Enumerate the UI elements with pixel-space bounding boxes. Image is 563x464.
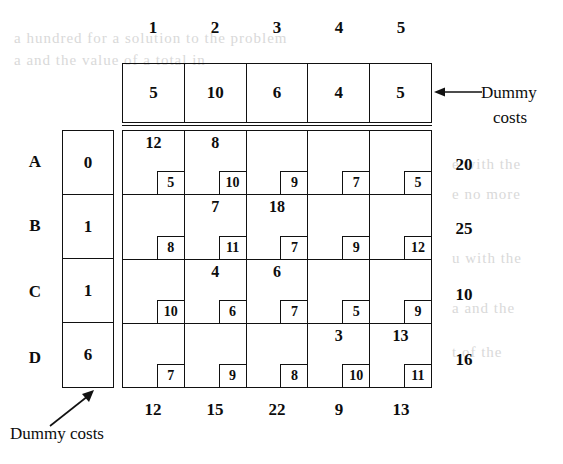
allocation-value: 18 <box>247 198 308 216</box>
dummy-costs-row: 5 10 6 4 5 <box>122 63 432 123</box>
cost-value: 9 <box>219 364 246 387</box>
dummy-costs-bottom-arrow <box>46 386 98 428</box>
demand-column-5: 13 <box>370 400 432 420</box>
cell-d1[interactable]: 7 <box>123 324 185 387</box>
dummy-cost-column-4: 4 <box>308 64 370 122</box>
table-row: 7 9 8 3 10 13 11 <box>123 324 431 387</box>
cost-value: 6 <box>219 300 246 323</box>
row-label-d: D <box>22 348 48 368</box>
table-row: 12 5 8 10 9 7 5 <box>123 131 431 195</box>
column-header-1: 1 <box>122 18 184 38</box>
row-label-c: C <box>22 282 48 302</box>
cell-d4[interactable]: 3 10 <box>308 324 370 387</box>
allocation-value: 7 <box>185 198 246 216</box>
allocation-grid: 12 5 8 10 9 7 5 8 7 11 18 7 <box>122 130 432 388</box>
cost-value: 9 <box>280 171 307 194</box>
cost-value: 7 <box>157 364 184 387</box>
cost-value: 12 <box>404 236 431 259</box>
dummy-cost-column-1: 5 <box>123 64 185 122</box>
column-header-4: 4 <box>308 18 370 38</box>
dummy-cost-column-5: 5 <box>370 64 431 122</box>
cost-value: 8 <box>157 236 184 259</box>
dummy-cost-row-a: 0 <box>63 131 113 195</box>
cost-value: 9 <box>404 300 431 323</box>
cost-value: 11 <box>404 364 431 387</box>
cell-b2[interactable]: 7 11 <box>185 195 247 258</box>
supply-row-b: 25 <box>444 219 484 239</box>
dummy-costs-bottom-label: Dummy costs <box>10 424 104 444</box>
cell-a3[interactable]: 9 <box>247 131 309 194</box>
cell-b5[interactable]: 12 <box>370 195 431 258</box>
dummy-cost-row-d: 6 <box>63 323 113 387</box>
row-label-b: B <box>22 216 48 236</box>
cost-value: 10 <box>219 171 246 194</box>
cell-d2[interactable]: 9 <box>185 324 247 387</box>
dummy-cost-row-c: 1 <box>63 259 113 323</box>
cell-c2[interactable]: 4 6 <box>185 260 247 323</box>
cell-b4[interactable]: 9 <box>308 195 370 258</box>
column-header-2: 2 <box>184 18 246 38</box>
dummy-costs-top-arrow <box>432 84 484 100</box>
cost-value: 7 <box>342 171 369 194</box>
cell-d5[interactable]: 13 11 <box>370 324 431 387</box>
cost-value: 10 <box>342 364 369 387</box>
supply-row-d: 16 <box>444 350 484 370</box>
dummy-costs-top-label: Dummy costs <box>481 80 561 130</box>
supply-row-c: 10 <box>444 285 484 305</box>
dummy-cost-row-b: 1 <box>63 195 113 259</box>
cell-d3[interactable]: 8 <box>247 324 309 387</box>
dummy-costs-column: 0 1 1 6 <box>62 130 114 388</box>
cell-c4[interactable]: 5 <box>308 260 370 323</box>
allocation-value: 12 <box>123 134 184 152</box>
cell-c1[interactable]: 10 <box>123 260 185 323</box>
allocation-value: 4 <box>185 263 246 281</box>
cost-value: 7 <box>280 300 307 323</box>
double-rule-divider <box>122 125 432 126</box>
allocation-value: 3 <box>308 327 369 345</box>
table-row: 8 7 11 18 7 9 12 <box>123 195 431 259</box>
allocation-value: 6 <box>247 263 308 281</box>
cell-a2[interactable]: 8 10 <box>185 131 247 194</box>
demand-column-1: 12 <box>122 400 184 420</box>
dummy-cost-column-3: 6 <box>247 64 309 122</box>
column-header-5: 5 <box>370 18 432 38</box>
demand-column-2: 15 <box>184 400 246 420</box>
cell-c5[interactable]: 9 <box>370 260 431 323</box>
cost-value: 5 <box>157 171 184 194</box>
demand-column-4: 9 <box>308 400 370 420</box>
dummy-costs-top-line1: Dummy <box>481 83 537 102</box>
allocation-value: 13 <box>370 327 431 345</box>
cell-c3[interactable]: 6 7 <box>247 260 309 323</box>
cost-value: 5 <box>404 171 431 194</box>
cell-b3[interactable]: 18 7 <box>247 195 309 258</box>
cost-value: 5 <box>342 300 369 323</box>
allocation-value: 8 <box>185 134 246 152</box>
cost-value: 9 <box>342 236 369 259</box>
cell-a4[interactable]: 7 <box>308 131 370 194</box>
cell-a1[interactable]: 12 5 <box>123 131 185 194</box>
cost-value: 10 <box>157 300 184 323</box>
bleed-through-texture: e no more <box>452 186 521 203</box>
dummy-costs-top-line2: costs <box>481 105 561 130</box>
demand-column-3: 22 <box>246 400 308 420</box>
supply-row-a: 20 <box>444 155 484 175</box>
cell-a5[interactable]: 5 <box>370 131 431 194</box>
cost-value: 11 <box>219 236 246 259</box>
cell-b1[interactable]: 8 <box>123 195 185 258</box>
bleed-through-texture: u with the <box>452 250 522 267</box>
cost-value: 8 <box>280 364 307 387</box>
dummy-cost-column-2: 10 <box>185 64 247 122</box>
cost-value: 7 <box>280 236 307 259</box>
row-label-a: A <box>22 152 48 172</box>
column-header-3: 3 <box>246 18 308 38</box>
table-row: 10 4 6 6 7 5 9 <box>123 260 431 324</box>
